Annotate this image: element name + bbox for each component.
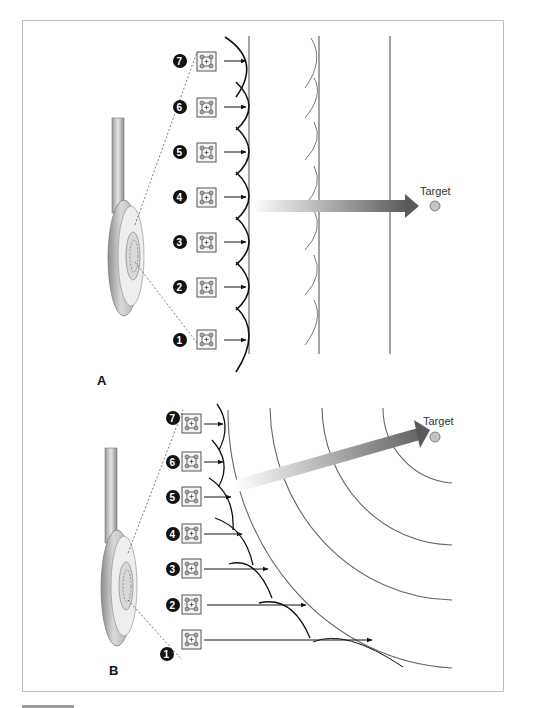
transducer-element-icon (182, 595, 201, 614)
target-icon (430, 201, 440, 211)
zoom-guide-line (135, 262, 197, 343)
svg-text:6: 6 (177, 102, 183, 113)
svg-text:4: 4 (177, 192, 183, 203)
svg-text:6: 6 (170, 457, 176, 468)
beam-arrow (252, 194, 419, 218)
transducer-probe-icon (101, 448, 137, 646)
target-icon (430, 432, 440, 442)
element-6: 6 (166, 452, 223, 471)
transducer-element-icon (182, 630, 201, 649)
element-1: 1 (160, 630, 372, 661)
transducer-element-icon (182, 414, 201, 433)
transducer-element-icon (197, 330, 216, 349)
zoom-guide-line (135, 52, 197, 225)
transducer-element-icon (182, 524, 201, 543)
transducer-element-icon (197, 233, 216, 252)
element-2: 2 (166, 595, 306, 614)
element-4: 4 (173, 188, 246, 207)
element-5: 5 (173, 143, 246, 162)
transducer-element-icon (197, 52, 216, 71)
transducer-element-icon (197, 188, 216, 207)
svg-text:2: 2 (177, 282, 183, 293)
element-2: 2 (173, 278, 246, 297)
transducer-element-icon (197, 143, 216, 162)
target-label: Target (423, 415, 454, 427)
svg-text:1: 1 (164, 649, 170, 660)
svg-text:3: 3 (177, 237, 183, 248)
svg-text:7: 7 (170, 413, 176, 424)
panel-b: Target 7 6 5 4 3 (101, 404, 454, 678)
phased-array-diagram: Target 7 6 5 4 3 (0, 0, 550, 708)
transducer-probe-icon (108, 118, 144, 316)
element-wavelets (225, 37, 249, 372)
element-5: 5 (166, 487, 231, 506)
svg-text:4: 4 (170, 529, 176, 540)
element-6: 6 (173, 98, 246, 117)
secondary-wavelets (305, 38, 317, 345)
svg-text:1: 1 (177, 335, 183, 346)
transducer-element-icon (182, 487, 201, 506)
svg-text:5: 5 (170, 492, 176, 503)
panel-label-b: B (109, 663, 118, 678)
element-7: 7 (166, 411, 223, 433)
panel-a: Target 7 6 5 4 3 (97, 36, 451, 388)
element-3: 3 (173, 233, 246, 252)
curved-wavefronts (228, 408, 452, 668)
transducer-element-icon (197, 98, 216, 117)
transducer-element-icon (182, 559, 201, 578)
element-7: 7 (173, 52, 246, 71)
svg-text:3: 3 (170, 564, 176, 575)
panel-label-a: A (97, 373, 107, 388)
target-label: Target (420, 185, 451, 197)
transducer-element-icon (182, 452, 201, 471)
element-1: 1 (173, 330, 246, 349)
transducer-element-icon (197, 278, 216, 297)
svg-text:7: 7 (177, 56, 183, 67)
svg-text:2: 2 (170, 600, 176, 611)
svg-text:5: 5 (177, 147, 183, 158)
